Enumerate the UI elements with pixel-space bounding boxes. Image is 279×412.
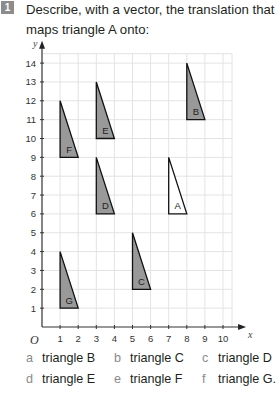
x-axis-arrow-icon [238, 324, 246, 330]
y-tick-label: 10 [25, 133, 36, 144]
origin-label: O [30, 333, 39, 345]
y-tick-label: 8 [31, 171, 36, 182]
option-a: atriangle B [26, 351, 95, 365]
y-tick-label: 7 [31, 190, 36, 201]
x-tick-label: 4 [112, 333, 117, 344]
x-tick-label: 10 [218, 333, 229, 344]
x-tick-label: 5 [130, 333, 135, 344]
y-axis-label: y [32, 38, 38, 49]
triangle-label-g: G [65, 295, 72, 306]
x-tick-label: 2 [76, 333, 81, 344]
x-tick-label: 8 [184, 333, 189, 344]
x-axis-label: x [247, 329, 253, 340]
triangle-label-a: A [175, 200, 182, 211]
option-f: ftriangle G. [202, 372, 276, 386]
triangle-label-b: B [193, 106, 199, 117]
option-c: ctriangle D [202, 351, 272, 365]
option-e: etriangle F [114, 372, 183, 386]
y-tick-label: 14 [25, 58, 36, 69]
coordinate-grid: 123456789101234567891011121314xyOABCDEFG [0, 0, 279, 345]
y-tick-label: 13 [25, 76, 36, 87]
triangle-label-c: C [138, 276, 145, 287]
x-tick-label: 1 [57, 333, 62, 344]
y-tick-label: 4 [31, 246, 36, 257]
y-tick-label: 6 [31, 208, 36, 219]
y-tick-label: 12 [25, 95, 36, 106]
x-tick-label: 6 [148, 333, 153, 344]
x-tick-label: 7 [166, 333, 171, 344]
triangle-label-d: D [102, 200, 109, 211]
triangle-label-f: F [66, 144, 72, 155]
x-tick-label: 9 [202, 333, 207, 344]
y-tick-label: 11 [26, 114, 36, 125]
y-tick-label: 9 [31, 152, 36, 163]
x-tick-label: 3 [94, 333, 99, 344]
y-tick-label: 1 [31, 303, 36, 314]
y-axis-arrow-icon [39, 41, 45, 49]
option-d: dtriangle E [26, 372, 95, 386]
y-tick-label: 5 [31, 227, 36, 238]
option-b: btriangle C [114, 351, 184, 365]
y-tick-label: 3 [31, 265, 36, 276]
triangle-label-e: E [102, 125, 108, 136]
y-tick-label: 2 [31, 284, 36, 295]
